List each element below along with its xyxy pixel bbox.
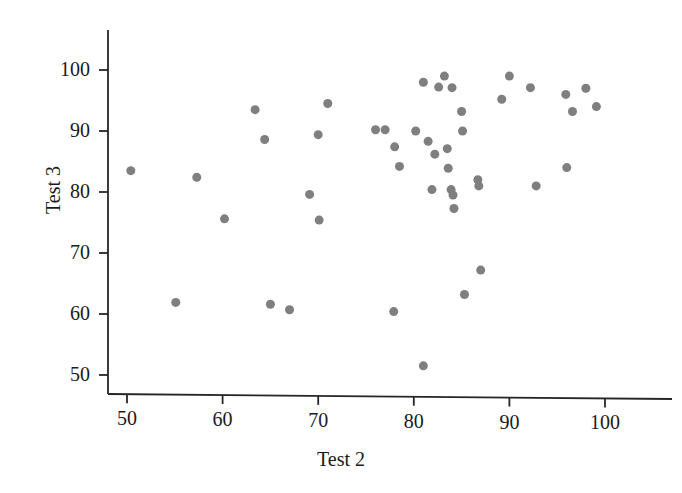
y-tick-label: 50	[8, 364, 90, 384]
data-point	[390, 142, 399, 151]
tick-marks	[99, 70, 605, 407]
data-point	[314, 130, 323, 139]
data-point	[424, 137, 433, 146]
x-tick-label: 60	[183, 409, 263, 429]
x-tick-label: 90	[469, 412, 549, 432]
data-point	[371, 125, 380, 134]
data-point	[419, 78, 428, 87]
data-point	[411, 127, 420, 136]
x-tick-label: 70	[278, 410, 358, 430]
data-point	[192, 173, 201, 182]
data-point	[526, 83, 535, 92]
data-point	[323, 99, 332, 108]
data-point	[458, 127, 467, 136]
data-point	[497, 95, 506, 104]
data-point	[381, 125, 390, 134]
x-tick-label: 50	[87, 408, 167, 428]
data-point	[476, 266, 485, 275]
data-point	[449, 191, 458, 200]
data-point	[457, 107, 466, 116]
data-point	[220, 214, 229, 223]
data-point	[581, 84, 590, 93]
data-point	[444, 164, 453, 173]
data-point	[434, 83, 443, 92]
y-axis-title: Test 3	[42, 130, 65, 250]
data-point	[305, 190, 314, 199]
data-point	[126, 166, 135, 175]
data-point	[474, 181, 483, 190]
data-point	[448, 83, 457, 92]
data-point	[460, 290, 469, 299]
data-point	[419, 361, 428, 370]
data-point	[592, 102, 601, 111]
x-axis-line	[108, 394, 672, 399]
data-point	[440, 72, 449, 81]
scatter-plot-figure: 5060708090100 5060708090100 Test 2 Test …	[0, 0, 682, 493]
data-point	[266, 300, 275, 309]
data-point	[389, 307, 398, 316]
x-tick-label: 80	[374, 411, 454, 431]
data-point	[505, 72, 514, 81]
data-point	[562, 163, 571, 172]
data-point-group	[126, 72, 601, 371]
data-point	[561, 90, 570, 99]
data-point	[427, 185, 436, 194]
x-tick-label: 100	[565, 412, 645, 432]
data-point	[285, 305, 294, 314]
data-point	[395, 162, 404, 171]
data-point	[532, 181, 541, 190]
data-point	[568, 107, 577, 116]
x-axis-title: Test 2	[0, 448, 682, 471]
y-tick-label: 60	[8, 303, 90, 323]
data-point	[430, 150, 439, 159]
y-tick-label: 100	[8, 59, 90, 79]
data-point	[171, 298, 180, 307]
data-point	[449, 204, 458, 213]
data-point	[260, 135, 269, 144]
data-point	[443, 144, 452, 153]
data-point	[251, 105, 260, 114]
data-point	[315, 216, 324, 225]
